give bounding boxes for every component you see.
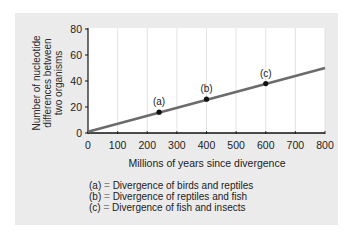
y-axis-title-line-1: Number of nucleotide xyxy=(31,28,42,138)
x-tick-label: 400 xyxy=(198,139,216,151)
x-tick-label: 200 xyxy=(138,139,156,151)
data-point xyxy=(157,110,162,115)
point-label: (a) xyxy=(153,96,165,107)
y-tick-label: 40 xyxy=(70,75,82,87)
x-axis-title: Millions of years since divergence xyxy=(88,157,326,169)
x-tick-label: 0 xyxy=(85,139,91,151)
y-tick-label: 60 xyxy=(70,49,82,61)
legend: (a) = Divergence of birds and reptiles (… xyxy=(89,180,253,213)
legend-text: Divergence of fish and insects xyxy=(112,202,245,213)
x-tick-label: 100 xyxy=(109,139,127,151)
data-point xyxy=(204,97,209,102)
y-axis-title: Number of nucleotide differences between… xyxy=(31,28,64,138)
legend-text: Divergence of reptiles and fish xyxy=(113,191,248,202)
legend-equals: = xyxy=(104,180,110,191)
point-label: (c) xyxy=(260,68,272,79)
legend-key: (a) xyxy=(89,180,101,191)
y-tick-label: 0 xyxy=(76,127,82,139)
y-tick-label: 20 xyxy=(70,101,82,113)
legend-key: (c) xyxy=(89,202,101,213)
point-label: (b) xyxy=(200,83,212,94)
x-tick-label: 800 xyxy=(316,139,334,151)
legend-equals: = xyxy=(104,191,110,202)
y-tick-label: 80 xyxy=(70,23,82,35)
x-tick-label: 500 xyxy=(227,139,245,151)
legend-item-b: (b) = Divergence of reptiles and fish xyxy=(89,191,253,202)
y-axis-title-line-2: differences between xyxy=(42,28,53,138)
x-tick-label: 300 xyxy=(168,139,186,151)
x-tick-label: 700 xyxy=(287,139,305,151)
data-point xyxy=(263,81,268,86)
legend-text: Divergence of birds and reptiles xyxy=(113,180,254,191)
x-tick-label: 600 xyxy=(257,139,275,151)
legend-item-a: (a) = Divergence of birds and reptiles xyxy=(89,180,253,191)
y-axis-title-line-3: two organisms xyxy=(53,28,64,138)
legend-key: (b) xyxy=(89,191,101,202)
legend-item-c: (c) = Divergence of fish and insects xyxy=(89,202,253,213)
legend-equals: = xyxy=(103,202,109,213)
